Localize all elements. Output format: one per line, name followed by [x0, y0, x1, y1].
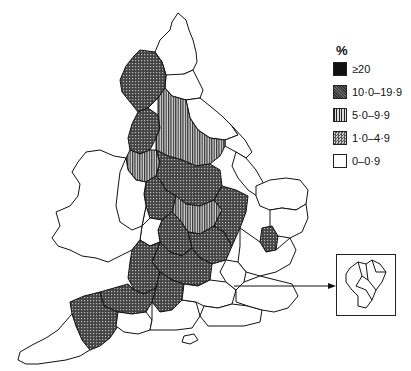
legend-label: ≥20 — [352, 63, 370, 75]
legend-swatch-cross-hatch — [333, 131, 347, 145]
london-inset-frame — [336, 254, 396, 316]
legend-swatch-vertical-lines — [333, 108, 347, 122]
legend-label: 5·0–9·9 — [352, 109, 390, 121]
isle-of-wight — [182, 334, 198, 344]
region-norfolk — [256, 178, 308, 210]
legend-item-0-0: 0–0·9 — [333, 151, 411, 170]
legend-swatch-dense-dot — [333, 85, 347, 99]
inset-pointer-arrowhead — [328, 283, 336, 289]
legend-swatch-white — [333, 154, 347, 168]
legend-item-1-4: 1·0–4·9 — [333, 128, 411, 147]
legend-label: 10·0–19·9 — [352, 86, 402, 98]
map-outline — [18, 13, 308, 364]
legend-title: % — [336, 44, 411, 57]
region-lancashire — [128, 108, 160, 154]
legend-label: 1·0–4·9 — [352, 132, 390, 144]
region-dorset — [116, 312, 152, 334]
legend-item-5-9: 5·0–9·9 — [333, 105, 411, 124]
legend: % ≥20 10·0–19·9 5·0–9·9 1·0–4·9 0–0·9 — [333, 44, 411, 174]
legend-swatch-solid — [333, 62, 347, 76]
legend-item-10-19: 10·0–19·9 — [333, 82, 411, 101]
legend-item-20-plus: ≥20 — [333, 59, 411, 78]
legend-label: 0–0·9 — [352, 155, 380, 167]
